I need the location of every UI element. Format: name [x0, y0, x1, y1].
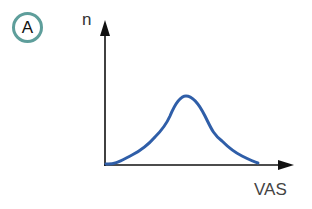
y-axis-arrow-icon — [100, 20, 110, 36]
distribution-curve — [106, 96, 258, 164]
distribution-plot — [0, 0, 312, 209]
x-axis-arrow-icon — [278, 160, 294, 170]
